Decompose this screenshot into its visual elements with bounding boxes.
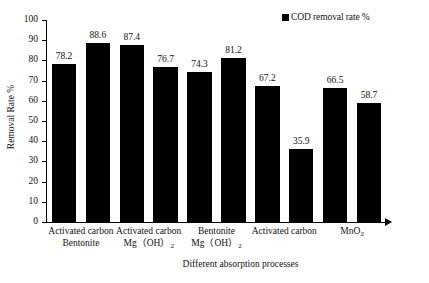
bar-item[interactable]: 58.7 xyxy=(357,20,381,222)
bar-value-label: 87.4 xyxy=(123,32,140,43)
x-axis-category-line2: Mg（OH）2 xyxy=(157,237,277,252)
bar-series: 78.288.687.476.774.381.267.235.966.558.7 xyxy=(47,20,386,222)
y-axis-tick: 30 xyxy=(42,161,46,162)
plot-area: 0102030405060708090100 78.288.687.476.77… xyxy=(46,20,386,222)
bar[interactable] xyxy=(289,149,313,222)
y-axis-tick-label: 20 xyxy=(29,176,39,187)
y-axis-tick-label: 30 xyxy=(29,155,39,166)
subscript: 2 xyxy=(238,242,242,250)
y-axis-tick-label: 60 xyxy=(29,95,39,106)
y-axis-tick: 70 xyxy=(42,81,46,82)
bar-item[interactable]: 67.2 xyxy=(255,20,279,222)
bar[interactable] xyxy=(357,103,381,222)
bar-value-label: 88.6 xyxy=(90,30,107,41)
bar-chart: COD removal rate % Removal Rate % 010203… xyxy=(0,0,429,283)
y-axis-tick-label: 10 xyxy=(29,196,39,207)
bar[interactable] xyxy=(255,86,279,222)
bar[interactable] xyxy=(52,64,76,222)
y-axis-title: Removal Rate % xyxy=(6,75,16,159)
bar[interactable] xyxy=(323,88,347,222)
y-axis-tick: 10 xyxy=(42,202,46,203)
y-axis-tick-label: 70 xyxy=(29,75,39,86)
y-axis-tick-label: 40 xyxy=(29,135,39,146)
bar[interactable] xyxy=(153,67,177,222)
y-axis-tick: 40 xyxy=(42,141,46,142)
bar-value-label: 35.9 xyxy=(293,136,310,147)
y-axis-tick-label: 50 xyxy=(29,115,39,126)
y-axis-tick-label: 100 xyxy=(24,14,38,25)
bar-item[interactable]: 87.4 xyxy=(120,20,144,222)
bar-value-label: 74.3 xyxy=(191,59,208,70)
y-axis-tick: 60 xyxy=(42,101,46,102)
y-axis-tick: 50 xyxy=(42,121,46,122)
bar-item[interactable]: 78.2 xyxy=(52,20,76,222)
y-axis-tick: 80 xyxy=(42,60,46,61)
x-axis-title-text: Different absorption processes xyxy=(183,259,299,269)
bar-item[interactable]: 76.7 xyxy=(153,20,177,222)
bar-item[interactable]: 88.6 xyxy=(86,20,110,222)
y-axis-tick-label: 90 xyxy=(29,34,39,45)
bar-value-label: 66.5 xyxy=(327,75,344,86)
x-axis-category-line1: MnO2 xyxy=(340,226,364,236)
y-axis-tick: 100 xyxy=(42,20,46,21)
x-axis-title: Different absorption processes xyxy=(0,259,429,269)
bar-value-label: 78.2 xyxy=(56,51,73,62)
x-axis-category-labels: Activated carbonBentoniteActivated carbo… xyxy=(46,225,386,261)
subscript: 2 xyxy=(360,230,364,238)
bar-value-label: 81.2 xyxy=(225,45,242,56)
bar[interactable] xyxy=(86,43,110,222)
x-axis-category-label: MnO2 xyxy=(292,225,412,240)
bar-value-label: 76.7 xyxy=(157,54,174,65)
bar[interactable] xyxy=(120,45,144,222)
y-axis-tick: 90 xyxy=(42,40,46,41)
y-axis-tick: 0 xyxy=(42,222,46,223)
bar-item[interactable]: 74.3 xyxy=(187,20,211,222)
bar-item[interactable]: 66.5 xyxy=(323,20,347,222)
bar-item[interactable]: 35.9 xyxy=(289,20,313,222)
bar[interactable] xyxy=(221,58,245,222)
y-axis-tick-label: 80 xyxy=(29,54,39,65)
bar-item[interactable]: 81.2 xyxy=(221,20,245,222)
bar-value-label: 58.7 xyxy=(361,90,378,101)
y-axis-tick: 20 xyxy=(42,182,46,183)
x-axis-line xyxy=(46,222,386,223)
bar-value-label: 67.2 xyxy=(259,73,276,84)
bar[interactable] xyxy=(187,72,211,222)
